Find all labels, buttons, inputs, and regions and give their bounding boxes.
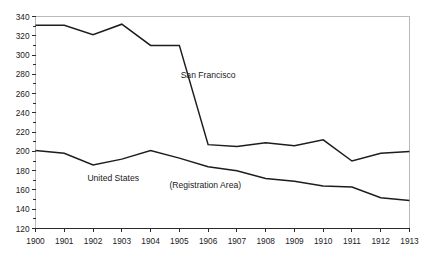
y-tick-label: 340 <box>16 12 30 22</box>
x-tick-label: 1902 <box>84 236 103 246</box>
y-tick-label: 260 <box>16 89 30 99</box>
y-tick-label: 280 <box>16 69 30 79</box>
x-tick-label: 1900 <box>26 236 45 246</box>
y-tick-label: 180 <box>16 166 30 176</box>
x-tick-label: 1907 <box>228 236 247 246</box>
y-tick-label: 300 <box>16 50 30 60</box>
y-tick-label: 160 <box>16 185 30 195</box>
annotation-registration-area: (Registration Area) <box>169 180 241 190</box>
x-tick-label: 1911 <box>343 236 361 246</box>
x-tick-label: 1903 <box>113 236 132 246</box>
x-tick-label: 1912 <box>371 236 390 246</box>
y-tick-label: 120 <box>16 224 30 234</box>
annotation-united-states: United States <box>87 173 139 183</box>
chart-background <box>0 0 428 268</box>
x-tick-label: 1904 <box>141 236 160 246</box>
annotation-san-francisco: San Francisco <box>181 70 236 80</box>
x-tick-label: 1906 <box>199 236 218 246</box>
chart-canvas: 120140160180200220240260280300320340 190… <box>0 0 428 268</box>
x-tick-label: 1910 <box>314 236 333 246</box>
x-tick-label: 1913 <box>400 236 419 246</box>
y-tick-label: 320 <box>16 31 30 41</box>
y-tick-label: 240 <box>16 108 30 118</box>
y-tick-label: 220 <box>16 127 30 137</box>
x-tick-label: 1908 <box>256 236 275 246</box>
x-tick-label: 1901 <box>55 236 74 246</box>
line-chart: 120140160180200220240260280300320340 190… <box>0 0 428 268</box>
x-tick-label: 1905 <box>170 236 189 246</box>
y-tick-label: 140 <box>16 204 30 214</box>
x-tick-label: 1909 <box>285 236 304 246</box>
y-tick-label: 200 <box>16 146 30 156</box>
